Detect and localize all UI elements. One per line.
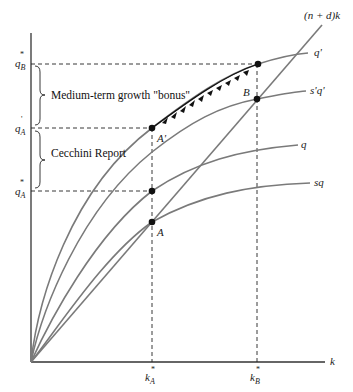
- point-A-prime: [149, 125, 156, 132]
- label-point-A: A: [157, 227, 164, 238]
- point-B: [254, 96, 261, 103]
- point-A: [149, 219, 156, 226]
- label-curve-q-prime: q': [314, 47, 322, 58]
- line-n-plus-d-k: [31, 25, 322, 362]
- braces: [35, 66, 45, 188]
- label-qA-prime: qA ': [15, 123, 25, 137]
- label-qA-star: qA *: [15, 186, 25, 200]
- annotation-bonus: Medium-term growth "bonus": [51, 90, 190, 102]
- label-curve-sq: sq: [314, 177, 324, 188]
- curve-sq: [31, 183, 310, 362]
- x-axis-label: k: [330, 356, 335, 367]
- annotation-cecchini: Cecchini Report: [51, 148, 126, 160]
- label-kA-star: kA *: [145, 372, 155, 386]
- point-q-at-kA: [149, 188, 156, 195]
- label-point-B: B: [243, 87, 250, 98]
- label-depreciation-line: (n + d)k: [304, 10, 340, 21]
- label-point-A-prime: A': [157, 133, 166, 144]
- point-top-B: [255, 61, 262, 68]
- growth-diagram: [0, 0, 353, 392]
- label-curve-s-prime-q-prime: s'q': [310, 85, 325, 96]
- label-kB-star: kB *: [250, 372, 260, 386]
- label-curve-q: q: [301, 139, 307, 150]
- label-qB-star: qB *: [15, 58, 25, 72]
